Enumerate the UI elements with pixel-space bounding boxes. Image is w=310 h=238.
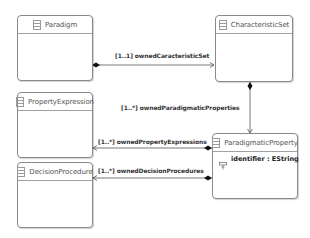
edge-label-owned-decision-procedures: [1..*] ownedDecisionProcedures xyxy=(98,167,204,174)
class-name: ParadigmaticProperty xyxy=(224,139,297,147)
class-name: CharacteristicSet xyxy=(231,21,289,29)
attribute-row[interactable]: identifier : EString xyxy=(213,152,297,163)
class-paradigmatic-property[interactable]: ParadigmaticProperty identifier : EStrin… xyxy=(212,133,298,199)
class-name: Paradigm xyxy=(45,21,77,29)
class-name: PropertyExpression xyxy=(28,98,94,106)
class-property-expression[interactable]: PropertyExpression xyxy=(17,92,93,158)
class-header: ParadigmaticProperty xyxy=(213,134,297,152)
class-decision-procedure[interactable]: DecisionProcedure xyxy=(17,162,93,228)
attribute-name: identifier : EString xyxy=(231,155,299,163)
edge-label-owned-caracteristic-set: [1..1] ownedCaracteristicSet xyxy=(115,52,209,59)
diagram-canvas: [1..1] ownedCaracteristicSet [1..*] owne… xyxy=(0,0,310,238)
class-header: CharacteristicSet xyxy=(216,16,292,34)
class-header: DecisionProcedure xyxy=(18,163,92,181)
class-name: DecisionProcedure xyxy=(29,168,92,176)
edge-label-owned-paradigmatic-properties: [1..*] ownedParadigmaticProperties xyxy=(121,104,239,111)
composition-diamond-icon xyxy=(204,146,212,151)
edge-owned-paradigmatic-properties[interactable] xyxy=(248,82,253,133)
edge-owned-caracteristic-set[interactable] xyxy=(92,63,214,68)
attribute-icon xyxy=(219,155,227,163)
eclass-icon xyxy=(212,138,220,148)
edge-owned-decision-procedures[interactable] xyxy=(93,176,212,181)
composition-diamond-icon xyxy=(92,63,100,68)
edge-label-owned-property-expressions: [1..*] ownedPropertyExpressions xyxy=(98,138,207,145)
class-characteristic-set[interactable]: CharacteristicSet xyxy=(215,15,293,82)
eclass-icon xyxy=(17,167,25,177)
class-paradigm[interactable]: Paradigm xyxy=(17,15,93,81)
composition-diamond-icon xyxy=(204,176,212,181)
composition-diamond-icon xyxy=(248,82,253,90)
class-header: PropertyExpression xyxy=(18,93,92,111)
eclass-icon xyxy=(33,20,41,30)
edge-owned-property-expressions[interactable] xyxy=(93,146,212,151)
eclass-icon xyxy=(219,20,227,30)
eclass-icon xyxy=(16,97,24,107)
class-header: Paradigm xyxy=(18,16,92,34)
